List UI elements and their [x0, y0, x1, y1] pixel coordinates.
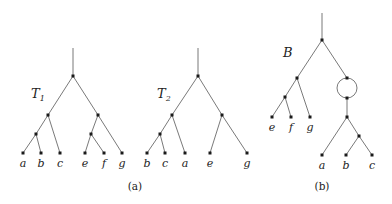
leaf-label: a [319, 159, 326, 172]
leaf-label: g [306, 121, 313, 134]
leaf-label: a [20, 157, 27, 170]
tree-t2-label: T2 [157, 86, 171, 103]
leaf-label: b [37, 157, 44, 170]
cycle-loop [337, 78, 357, 98]
tree-t1: T1 a b c e f g [20, 48, 126, 170]
leaf-label: c [369, 159, 375, 172]
leaf-label: e [269, 121, 276, 134]
leaf-label: c [57, 157, 63, 170]
network-b-label: B [282, 45, 293, 60]
leaf-label: b [143, 157, 150, 170]
leaf-label: a [182, 157, 189, 170]
leaf-label: e [82, 157, 89, 170]
caption-b: (b) [315, 180, 330, 192]
leaf-label: b [342, 159, 349, 172]
leaf-label: g [118, 157, 125, 170]
tree-figure: T1 a b c e f g T2 b c a e g [0, 0, 392, 204]
leaf-label: f [101, 157, 108, 170]
tree-t1-label: T1 [31, 86, 45, 103]
network-b: B e f g a b c [269, 13, 375, 172]
leaf-label: f [288, 121, 295, 134]
leaf-label: c [162, 157, 168, 170]
leaf-label: e [207, 157, 214, 170]
tree-t2: T2 b c a e g [143, 48, 250, 170]
leaf-label: g [243, 157, 250, 170]
caption-a: (a) [128, 180, 142, 192]
